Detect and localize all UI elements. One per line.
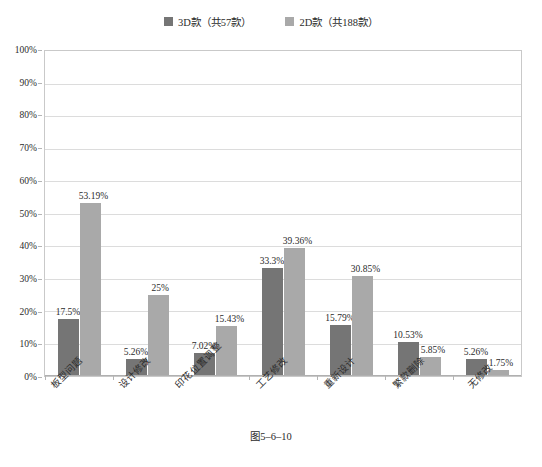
y-axis-tick (38, 50, 42, 51)
y-axis-tick-label: 100% (15, 45, 37, 55)
y-axis-tick-label: 90% (20, 78, 37, 88)
y-axis-tick-label: 30% (20, 274, 37, 284)
bar-2d[interactable]: 53.19% (80, 203, 101, 376)
y-axis-labels: 100%90%80%70%60%50%40%30%20%10%0% (0, 50, 42, 377)
bar-value-label: 30.85% (351, 264, 380, 274)
legend-label-3d: 3D款（共57款） (178, 14, 251, 29)
plot-area: 17.5%53.19%5.26%25%7.02%15.43%33.3%39.36… (44, 50, 522, 377)
y-axis-tick (38, 377, 42, 378)
y-axis-tick (38, 83, 42, 84)
plot-wrapper: 17.5%53.19%5.26%25%7.02%15.43%33.3%39.36… (44, 50, 522, 377)
bar-value-label: 33.3% (260, 256, 285, 266)
x-axis-category: 印花位置调整 (181, 377, 249, 429)
x-axis-category: 繁款删除 (385, 377, 453, 429)
bar-2d[interactable]: 39.36% (284, 248, 305, 376)
bar-group: 33.3%39.36% (249, 51, 317, 376)
figure-container: 3D款（共57款） 2D款（共188款） 100%90%80%70%60%50%… (0, 0, 542, 467)
y-axis-tick-label: 40% (20, 241, 37, 251)
bar-value-label: 17.5% (56, 307, 81, 317)
bar-value-label: 15.79% (325, 313, 354, 323)
y-axis-tick-label: 50% (20, 209, 37, 219)
legend-label-2d: 2D款（共188款） (299, 14, 378, 29)
y-axis-tick (38, 279, 42, 280)
bar-value-label: 39.36% (283, 236, 312, 246)
legend-item-2d[interactable]: 2D款（共188款） (285, 14, 378, 29)
bar-group: 5.26%1.75% (453, 51, 521, 376)
y-axis-tick-label: 0% (24, 372, 37, 382)
y-axis-tick (38, 246, 42, 247)
bar-value-label: 10.53% (393, 330, 422, 340)
bar-group: 15.79%30.85% (317, 51, 385, 376)
y-axis-tick-label: 10% (20, 339, 37, 349)
x-axis-category: 设计修改 (112, 377, 180, 429)
y-axis-tick-label: 20% (20, 307, 37, 317)
y-axis-tick-label: 70% (20, 143, 37, 153)
x-axis-category: 重新设计 (317, 377, 385, 429)
y-axis-tick-label: 80% (20, 110, 37, 120)
legend-swatch-3d (164, 17, 173, 26)
bars-layer: 17.5%53.19%5.26%25%7.02%15.43%33.3%39.36… (45, 51, 521, 376)
y-axis-tick (38, 115, 42, 116)
y-axis-tick (38, 312, 42, 313)
bar-value-label: 15.43% (215, 314, 244, 324)
chart-legend: 3D款（共57款） 2D款（共188款） (0, 14, 542, 29)
bar-group: 10.53%5.85% (385, 51, 453, 376)
bar-group: 5.26%25% (113, 51, 181, 376)
bar-value-label: 53.19% (79, 191, 108, 201)
legend-item-3d[interactable]: 3D款（共57款） (164, 14, 251, 29)
bar-value-label: 5.85% (421, 345, 446, 355)
y-axis-tick (38, 214, 42, 215)
y-axis-tick (38, 344, 42, 345)
bar-value-label: 5.26% (464, 347, 489, 357)
figure-caption: 图5–6–10 (0, 428, 542, 443)
y-axis-tick-label: 60% (20, 176, 37, 186)
legend-swatch-2d (285, 17, 294, 26)
x-axis-category: 工艺修改 (249, 377, 317, 429)
bar-group: 17.5%53.19% (45, 51, 113, 376)
bar-value-label: 25% (151, 283, 168, 293)
x-axis-category-labels: 板型问题设计修改印花位置调整工艺修改重新设计繁款删除无修改 (44, 377, 522, 429)
x-axis-category: 无修改 (454, 377, 522, 429)
x-axis-baseline (45, 375, 521, 376)
y-axis-tick (38, 148, 42, 149)
y-axis-tick (38, 181, 42, 182)
bar-group: 7.02%15.43% (181, 51, 249, 376)
x-axis-category: 板型问题 (44, 377, 112, 429)
